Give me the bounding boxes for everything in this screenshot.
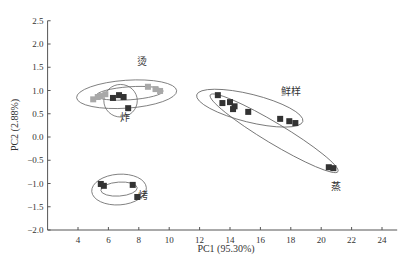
data-point <box>230 106 236 112</box>
group-label: 鲜样 <box>281 85 301 97</box>
y-tick-label: 1.0 <box>32 86 44 96</box>
data-point <box>215 92 221 98</box>
y-tick-label: 0.0 <box>32 132 44 142</box>
data-point <box>245 109 251 115</box>
group-label: 烫 <box>137 56 147 67</box>
x-tick-label: 20 <box>317 235 327 245</box>
y-tick-label: −1.0 <box>27 179 44 189</box>
data-point <box>130 182 136 188</box>
data-point <box>145 84 151 90</box>
x-tick-label: 4 <box>76 235 81 245</box>
x-tick-label: 8 <box>137 235 142 245</box>
data-point <box>121 94 127 100</box>
y-tick-label: −1.5 <box>27 202 44 212</box>
y-tick-label: 1.5 <box>32 62 44 72</box>
y-tick-label: −2.0 <box>27 225 44 235</box>
data-point <box>277 116 283 122</box>
group-label: 蒸 <box>331 181 341 192</box>
y-tick-label: 0.5 <box>32 109 44 119</box>
axes: 2.52.01.51.00.50.0−0.5−1.0−1.5−2.0468101… <box>27 16 397 245</box>
pca-scatter-chart: 2.52.01.51.00.50.0−0.5−1.0−1.5−2.0468101… <box>0 0 408 271</box>
ellipse-鲜样+蒸 <box>205 86 343 180</box>
x-tick-label: 10 <box>165 235 175 245</box>
x-tick-label: 6 <box>106 235 111 245</box>
data-point <box>330 165 336 171</box>
x-tick-label: 24 <box>378 235 388 245</box>
data-point <box>110 95 116 101</box>
data-point <box>292 120 298 126</box>
y-axis-title: PC2 (2.88%) <box>9 99 21 151</box>
data-point <box>125 105 131 111</box>
data-point <box>219 100 225 106</box>
x-tick-label: 22 <box>347 235 356 245</box>
y-tick-label: −0.5 <box>27 155 44 165</box>
group-labels: 烫炸鲜样蒸烤 <box>120 56 341 201</box>
group-label: 炸 <box>120 112 130 123</box>
x-tick-label: 18 <box>286 235 296 245</box>
y-tick-label: 2.5 <box>32 16 44 26</box>
data-point <box>101 183 107 189</box>
data-point <box>286 118 292 124</box>
data-point <box>157 88 163 94</box>
x-tick-label: 16 <box>256 235 266 245</box>
group-label: 烤 <box>138 189 148 201</box>
x-axis-title: PC1 (95.30%) <box>197 243 254 255</box>
data-point <box>102 91 108 97</box>
y-tick-label: 2.0 <box>32 39 44 49</box>
